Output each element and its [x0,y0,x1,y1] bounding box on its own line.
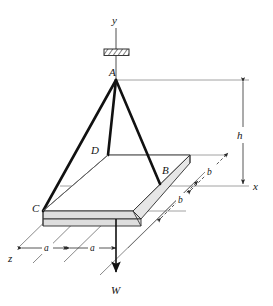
y-axis: y [111,14,117,50]
dimension-b-lower-label: b [178,195,183,205]
point-label-D: D [90,144,99,156]
point-label-A: A [108,66,116,78]
support-hatch-block [104,49,129,56]
dimension-h: h [235,82,248,184]
fixed-support [104,49,129,80]
weight-label: W [111,284,121,296]
dimension-h-label: h [237,129,243,141]
dimension-a-right-label: a [90,243,95,253]
point-label-C: C [32,202,40,214]
z-axis-label: z [7,252,13,264]
dimension-a-left-label: a [44,243,49,253]
weight-load: W [111,219,121,296]
plate-front-face [43,211,141,219]
point-label-B: B [162,164,169,176]
x-axis-label: x [252,180,258,192]
suspended-plate-diagram: y A x z [0,0,273,306]
figure-container: y A x z [0,0,273,306]
plate-front-thickness [43,219,141,226]
dimension-a-group: a a [22,241,116,254]
dimension-b-upper-label: b [207,167,212,177]
y-axis-label: y [111,14,117,26]
